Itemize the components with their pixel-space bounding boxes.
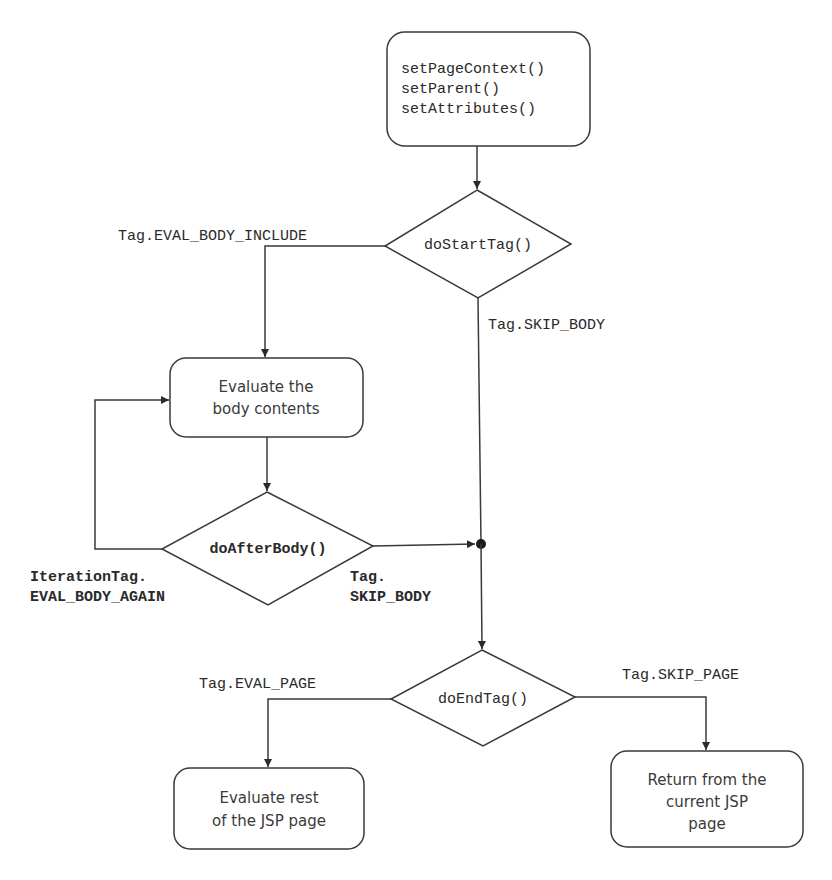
init-line-setparent: setParent() <box>401 81 500 98</box>
return-line-1: Return from the <box>648 771 767 789</box>
edge-eval-body-include <box>265 246 385 357</box>
evalbody-line-2: body contents <box>212 400 319 418</box>
evalrest-line-2: of the JSP page <box>212 812 326 830</box>
edge-skip-body <box>478 298 481 544</box>
doafterbody-label: doAfterBody() <box>209 541 326 558</box>
return-line-2: current JSP <box>666 793 748 811</box>
flowchart-canvas: setPageContext() setParent() setAttribut… <box>0 0 832 880</box>
edge-junction-to-doendtag <box>481 544 482 649</box>
label-eval-body-again-1: IterationTag. <box>30 569 147 586</box>
node-evaluate-body: Evaluate the body contents <box>170 358 363 437</box>
doendtag-label: doEndTag() <box>438 691 528 708</box>
node-evaluate-rest: Evaluate rest of the JSP page <box>174 768 364 849</box>
label-after-skip-body-1: Tag. <box>350 569 386 586</box>
evalrest-line-1: Evaluate rest <box>219 789 318 807</box>
node-init-methods: setPageContext() setParent() setAttribut… <box>387 32 590 146</box>
label-after-skip-body-2: SKIP_BODY <box>350 589 431 606</box>
edge-eval-page <box>268 699 391 767</box>
node-doendtag-decision: doEndTag() <box>391 650 575 746</box>
dostarttag-label: doStartTag() <box>424 237 532 254</box>
node-doafterbody-decision: doAfterBody() <box>162 492 373 605</box>
label-eval-body-again-2: EVAL_BODY_AGAIN <box>30 589 165 606</box>
label-skip-page: Tag.SKIP_PAGE <box>622 667 739 684</box>
edge-eval-body-again-loop <box>95 400 169 549</box>
label-eval-body-include: Tag.EVAL_BODY_INCLUDE <box>118 228 307 245</box>
label-skip-body: Tag.SKIP_BODY <box>488 317 605 334</box>
evalbody-line-1: Evaluate the <box>219 378 314 396</box>
edge-skip-page <box>575 697 706 750</box>
node-dostarttag-decision: doStartTag() <box>385 190 571 298</box>
edge-afterbody-skip-body <box>373 544 475 546</box>
label-eval-page: Tag.EVAL_PAGE <box>199 676 316 693</box>
init-line-setattributes: setAttributes() <box>401 101 536 118</box>
init-line-setpagecontext: setPageContext() <box>401 61 545 78</box>
node-return-from-page: Return from the current JSP page <box>611 751 803 847</box>
return-line-3: page <box>688 815 725 833</box>
